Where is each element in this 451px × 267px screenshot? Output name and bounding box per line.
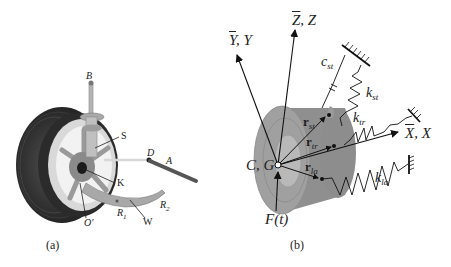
label-origin-cg: C, G	[246, 158, 274, 173]
damper-c-st	[322, 84, 333, 108]
ground-tr	[408, 109, 420, 122]
label-k-st: kst	[366, 86, 378, 102]
label-d: D	[147, 148, 154, 158]
label-r-la: rla	[305, 160, 318, 176]
point-b-marker	[89, 81, 94, 86]
label-s: S	[121, 131, 127, 141]
label-k-la: kla	[375, 171, 388, 187]
label-k: K	[117, 178, 124, 188]
rod-a	[150, 161, 196, 181]
caption-a: (a)	[46, 239, 59, 251]
label-b: B	[86, 71, 92, 81]
caption-b: (b)	[290, 239, 304, 251]
label-r-tr: rtr	[306, 135, 318, 151]
label-c-st: cst	[321, 55, 333, 71]
strut-body	[86, 117, 97, 157]
label-w: W	[143, 217, 152, 227]
label-r-st: rst	[303, 115, 315, 131]
label-r2: R2	[160, 200, 170, 213]
label-o-prime: O'	[84, 218, 93, 228]
label-r1: R1	[117, 208, 127, 221]
label-a: A	[166, 156, 172, 166]
label-k-tr: ktr	[353, 111, 365, 127]
label-force: F(t)	[265, 212, 288, 227]
diagram-canvas	[0, 0, 451, 267]
label-x-axis: X, X	[405, 126, 431, 141]
ground-st	[342, 45, 370, 66]
strut-rod	[89, 84, 93, 114]
label-y-axis: Y, Y	[229, 33, 252, 48]
label-z-axis: Z, Z	[292, 13, 316, 28]
origin-marker	[275, 162, 281, 168]
